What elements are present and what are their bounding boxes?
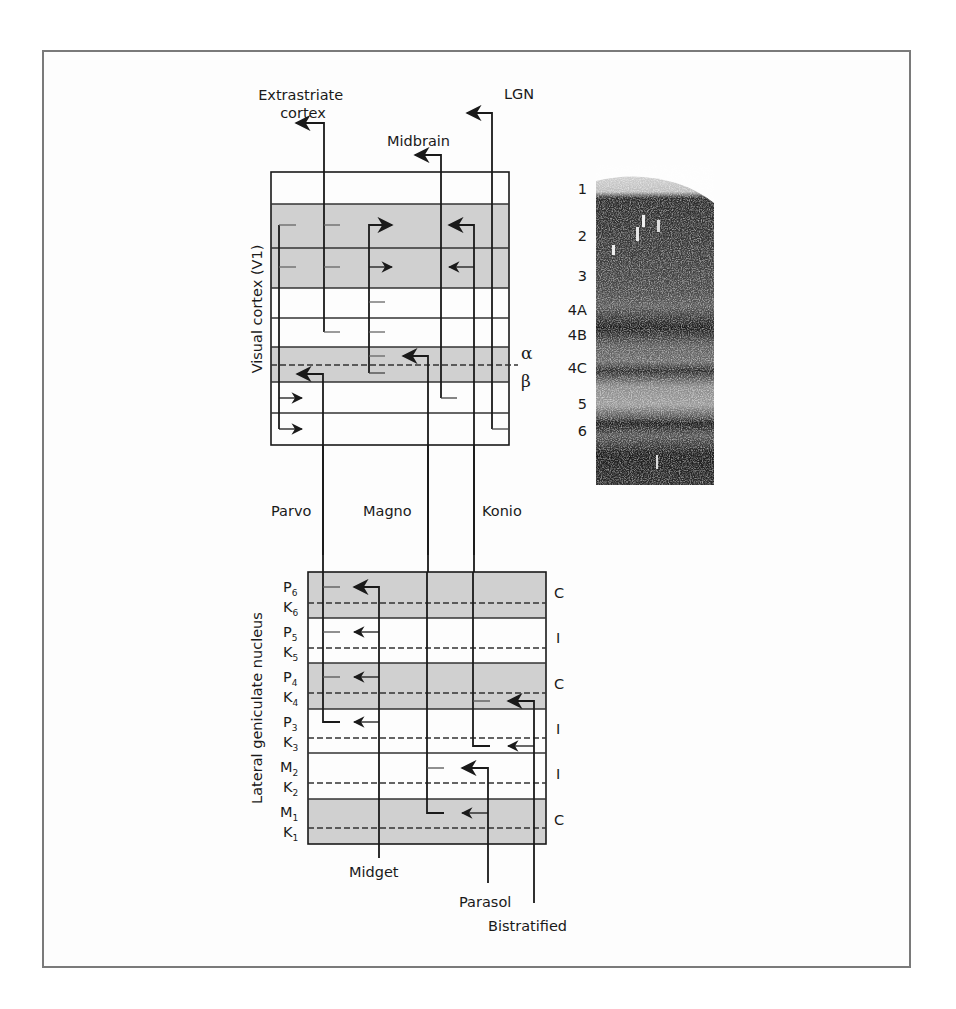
svg-text:3: 3 <box>578 268 587 284</box>
svg-text:I: I <box>556 630 560 646</box>
target-midbrain-label: Midbrain <box>387 133 450 149</box>
lgn-layer-label: K5 <box>283 644 298 663</box>
ganglion-parasol-label: Parasol <box>459 894 511 910</box>
cortical-layer-labels: 1 2 3 4A 4B 4C 5 6 <box>568 181 587 439</box>
svg-text:6: 6 <box>578 423 587 439</box>
sublayer-alpha-label: α <box>521 343 533 363</box>
svg-text:C: C <box>554 812 564 828</box>
v1-box <box>271 172 518 445</box>
lgn-layer-label: K1 <box>283 824 298 843</box>
lgn-layer-label: M2 <box>280 759 298 778</box>
svg-text:4C: 4C <box>568 360 587 376</box>
lgn-layer-label: P5 <box>283 624 297 643</box>
target-lgn-label: LGN <box>504 86 534 102</box>
lgn-layer-labels: P6 K6 P5 K5 P4 K4 P3 K3 M2 K2 M1 K1 <box>280 579 299 843</box>
svg-text:I: I <box>556 766 560 782</box>
svg-text:4B: 4B <box>568 327 587 343</box>
ganglion-midget-label: Midget <box>349 864 399 880</box>
lgn-layer-label: K2 <box>283 779 298 798</box>
pathway-konio-label: Konio <box>482 503 522 519</box>
lgn-layer-label: K6 <box>283 599 299 618</box>
svg-text:1: 1 <box>578 181 587 197</box>
lgn-axis-label: Lateral geniculate nucleus <box>249 612 265 804</box>
svg-text:2: 2 <box>578 228 587 244</box>
pathway-parvo-label: Parvo <box>271 503 312 519</box>
svg-text:5: 5 <box>578 396 587 412</box>
sublayer-beta-label: β <box>521 371 531 391</box>
ganglion-bistratified-label: Bistratified <box>488 918 567 934</box>
lgn-layer-label: K3 <box>283 734 298 753</box>
svg-text:I: I <box>556 721 560 737</box>
pathway-magno-label: Magno <box>363 503 412 519</box>
svg-text:C: C <box>554 585 564 601</box>
lgn-layer-label: P3 <box>283 714 297 733</box>
lgn-layer-label: K4 <box>283 689 299 708</box>
v1-axis-label: Visual cortex (V1) <box>249 245 265 374</box>
svg-text:C: C <box>554 676 564 692</box>
eye-labels: C I C I I C <box>554 585 564 828</box>
target-extrastriate-label: Extrastriate cortex <box>258 87 348 121</box>
pathway-diagram: LGN Extrastriate cortex Midbrain Visual … <box>0 0 956 1009</box>
lgn-layer-label: M1 <box>280 804 298 823</box>
lgn-layer-label: P4 <box>283 669 298 688</box>
svg-text:4A: 4A <box>568 302 587 318</box>
lgn-layer-label: P6 <box>283 579 298 598</box>
